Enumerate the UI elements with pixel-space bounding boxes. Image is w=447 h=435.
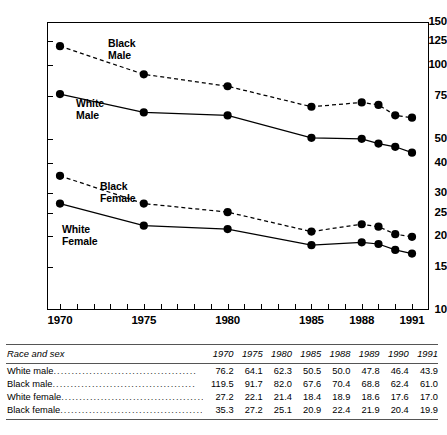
x-tick-label-1975: 1975 <box>131 314 156 326</box>
cell-1980: 25.1 <box>263 403 292 418</box>
cell-1985: 20.9 <box>292 403 321 418</box>
cell-1975: 91.7 <box>234 377 263 390</box>
row-label-black-female: Black female ...........................… <box>6 403 203 418</box>
x-tick-label-1980: 1980 <box>215 314 240 326</box>
table-row: White male .............................… <box>6 364 438 378</box>
data-point-black-female-1990 <box>391 230 399 238</box>
cell-1989: 18.6 <box>350 390 379 403</box>
line-chart: 1501251007550403025201510 19701975198019… <box>0 0 447 330</box>
data-point-black-male-1980 <box>224 82 232 90</box>
data-point-black-male-1990 <box>391 111 399 119</box>
table-row: Black female ...........................… <box>6 403 438 418</box>
data-table: Race and sex 1970 1975 1980 1985 1988 19… <box>6 344 438 420</box>
cell-1985: 50.5 <box>292 364 321 378</box>
data-point-white-male-1985 <box>307 134 315 142</box>
x-tick-label-1988: 1988 <box>349 314 374 326</box>
col-header-1970: 1970 <box>203 345 233 364</box>
cell-1991: 61.0 <box>409 377 438 390</box>
data-point-white-female-1975 <box>140 222 148 230</box>
table-body: White male .............................… <box>6 364 438 418</box>
cell-1985: 18.4 <box>292 390 321 403</box>
col-header-1975: 1975 <box>234 345 263 364</box>
data-point-white-male-1991 <box>408 149 416 157</box>
cell-1988: 22.4 <box>321 403 350 418</box>
data-point-white-female-1990 <box>391 246 399 254</box>
series-label-black-female: Black Female <box>100 181 136 205</box>
data-point-white-male-1980 <box>224 111 232 119</box>
cell-1990: 46.4 <box>380 364 409 378</box>
cell-1990: 62.4 <box>380 377 409 390</box>
data-point-white-female-1989 <box>374 240 382 248</box>
dot-leader: ........................................ <box>52 379 195 389</box>
cell-1980: 21.4 <box>263 390 292 403</box>
series-label-white-male: White Male <box>76 98 104 122</box>
x-tick-label-1985: 1985 <box>299 314 324 326</box>
col-header-1988: 1988 <box>321 345 350 364</box>
cell-1988: 70.4 <box>321 377 350 390</box>
cell-1980: 62.3 <box>263 364 292 378</box>
table-header-row: Race and sex 1970 1975 1980 1985 1988 19… <box>6 345 438 364</box>
cell-1991: 43.9 <box>409 364 438 378</box>
data-point-black-female-1985 <box>307 228 315 236</box>
cell-1970: 35.3 <box>203 403 233 418</box>
cell-1970: 27.2 <box>203 390 233 403</box>
col-header-1985: 1985 <box>292 345 321 364</box>
data-point-black-female-1980 <box>224 208 232 216</box>
cell-1985: 67.6 <box>292 377 321 390</box>
row-label-text: White male <box>7 366 54 376</box>
cell-1991: 17.0 <box>409 390 438 403</box>
cell-1989: 68.8 <box>350 377 379 390</box>
series-label-black-male: Black Male <box>108 38 136 62</box>
data-point-black-male-1988 <box>358 98 366 106</box>
col-header-1980: 1980 <box>263 345 292 364</box>
x-tick-label-1970: 1970 <box>48 314 73 326</box>
series-label-white-female: White Female <box>62 224 98 248</box>
table-bottom-rule <box>6 419 438 420</box>
row-label-text: Black male <box>7 379 52 389</box>
cell-1988: 18.9 <box>321 390 350 403</box>
data-point-black-female-1975 <box>140 199 148 207</box>
cell-1970: 76.2 <box>203 364 233 378</box>
data-point-black-female-1970 <box>56 172 64 180</box>
data-point-white-male-1970 <box>56 90 64 98</box>
data-point-black-female-1989 <box>374 223 382 231</box>
data-point-white-female-1980 <box>224 225 232 233</box>
row-label-text: White female <box>7 392 61 402</box>
row-label-text: Black female <box>7 405 60 415</box>
cell-1989: 21.9 <box>350 403 379 418</box>
cell-1975: 64.1 <box>234 364 263 378</box>
cell-1970: 119.5 <box>203 377 233 390</box>
data-point-white-male-1988 <box>358 135 366 143</box>
data-point-black-male-1970 <box>56 42 64 50</box>
col-header-1989: 1989 <box>350 345 379 364</box>
table-header: Race and sex 1970 1975 1980 1985 1988 19… <box>6 345 438 364</box>
cell-1975: 27.2 <box>234 403 263 418</box>
cell-1989: 47.8 <box>350 364 379 378</box>
data-point-black-female-1988 <box>358 220 366 228</box>
col-header-race-and-sex: Race and sex <box>6 345 203 364</box>
cell-1988: 50.0 <box>321 364 350 378</box>
data-point-white-male-1990 <box>391 143 399 151</box>
cell-1991: 19.9 <box>409 403 438 418</box>
col-header-1991: 1991 <box>409 345 438 364</box>
x-tick-label-1991: 1991 <box>400 314 425 326</box>
dot-leader: ........................................ <box>60 405 202 415</box>
row-label-black-male: Black male .............................… <box>6 377 203 390</box>
data-point-black-male-1991 <box>408 114 416 122</box>
table-row: Black male .............................… <box>6 377 438 390</box>
series-line-white-female <box>60 204 412 254</box>
data-point-white-male-1989 <box>374 140 382 148</box>
row-label-white-male: White male .............................… <box>6 364 203 378</box>
chart-page: 1501251007550403025201510 19701975198019… <box>0 0 447 435</box>
row-label-white-female: White female ...........................… <box>6 390 203 403</box>
data-point-black-female-1991 <box>408 233 416 241</box>
data-point-white-female-1985 <box>307 241 315 249</box>
data-point-white-female-1970 <box>56 199 64 207</box>
cell-1990: 20.4 <box>380 403 409 418</box>
cell-1990: 17.6 <box>380 390 409 403</box>
dot-leader: ........................................ <box>61 392 203 402</box>
data-point-black-male-1985 <box>307 103 315 111</box>
series-lines <box>47 22 429 310</box>
dot-leader: ........................................ <box>54 366 197 376</box>
cell-1975: 22.1 <box>234 390 263 403</box>
